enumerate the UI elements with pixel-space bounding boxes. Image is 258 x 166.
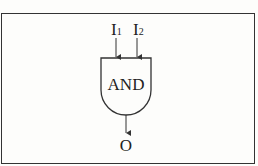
input-1-label: I1 — [111, 20, 122, 39]
and-gate-diagram: I1 I2 AND O — [0, 0, 258, 166]
gate-label: AND — [108, 75, 145, 94]
input-2-label: I2 — [133, 20, 144, 39]
output-label: O — [120, 136, 132, 155]
